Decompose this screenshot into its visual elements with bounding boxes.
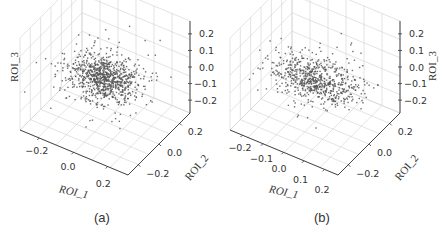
caption-a: (a) (94, 210, 110, 225)
z-tick-label: 0.2 (199, 28, 214, 39)
z-tick-label: 0.0 (199, 62, 214, 73)
y-tick-label: 0.2 (398, 126, 413, 137)
x-tick-label: −0.2 (25, 145, 48, 156)
z-tick-label: 0.2 (409, 28, 424, 39)
x-axis-label: ROI_1 (267, 182, 299, 200)
y-tick-label: −0.2 (146, 168, 169, 179)
panel-a: −0.20.00.2−0.20.00.20.20.10.0−0.1−0.2ROI… (0, 0, 222, 238)
z-tick-label: 0.1 (409, 45, 424, 56)
y-tick-label: 0.2 (188, 126, 203, 137)
x-tick-label: 0.0 (60, 161, 75, 172)
scatter3d-plot-b: −0.2−0.10.00.10.2−0.20.00.20.20.10.0−0.1… (222, 0, 444, 238)
z-tick-label: −0.1 (404, 78, 427, 89)
x-tick-label: 0.2 (315, 184, 330, 195)
z-tick-label: −0.1 (194, 78, 217, 89)
caption-b: (b) (314, 210, 330, 225)
y-axis-label: ROI_2 (392, 152, 420, 183)
scatter3d-plot-a: −0.20.00.2−0.20.00.20.20.10.0−0.1−0.2ROI… (0, 0, 222, 238)
z-tick-label: 0.1 (199, 45, 214, 56)
y-axis-label: ROI_2 (182, 152, 210, 183)
y-tick-label: 0.0 (167, 147, 182, 158)
x-axis-label: ROI_1 (57, 182, 89, 200)
x-tick-label: 0.1 (293, 174, 308, 185)
y-tick-label: −0.2 (356, 168, 379, 179)
scatter-points (249, 33, 379, 129)
x-tick-label: −0.1 (250, 153, 273, 164)
x-tick-label: 0.0 (271, 163, 286, 174)
x-tick-label: −0.2 (228, 142, 251, 153)
z-axis-label: ROI_3 (426, 51, 438, 81)
y-tick-label: 0.0 (377, 147, 392, 158)
panel-b: −0.2−0.10.00.10.2−0.20.00.20.20.10.0−0.1… (222, 0, 444, 238)
x-tick-label: 0.2 (96, 178, 111, 189)
z-tick-label: 0.0 (409, 62, 424, 73)
z-tick-label: −0.2 (194, 95, 217, 106)
z-tick-label: −0.2 (404, 95, 427, 106)
z-axis-label: ROI_3 (8, 52, 20, 82)
